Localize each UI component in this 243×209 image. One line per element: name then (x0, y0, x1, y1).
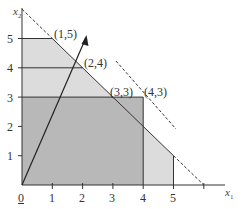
point-label-3-3: (3,3) (110, 86, 133, 98)
y-tick-label-5: 5 (7, 33, 13, 45)
y-tick-label-1: 1 (7, 150, 13, 162)
point-label-4-3: (4,3) (144, 86, 167, 98)
y-axis-label: x2 (13, 6, 21, 20)
dashed-extension-lower (174, 156, 204, 185)
x-tick-label-5: 5 (170, 192, 176, 204)
x-tick-label-2: 2 (79, 192, 85, 204)
x-axis-label: x1 (225, 187, 233, 201)
inner-dark-region (22, 97, 143, 185)
dashed-extension-upper (22, 9, 52, 38)
point-label-1-5: (1,5) (54, 28, 77, 40)
x-tick-label-3: 3 (109, 192, 115, 204)
y-tick-label-4: 4 (7, 62, 13, 74)
lp-diagram (0, 0, 243, 209)
x-tick-label-4: 4 (140, 192, 146, 204)
x-tick-label-1: 1 (49, 192, 55, 204)
origin-label: 0 (18, 192, 24, 204)
point-label-2-4: (2,4) (84, 57, 107, 69)
y-tick-label-3: 3 (7, 92, 13, 104)
y-tick-label-2: 2 (7, 121, 13, 133)
